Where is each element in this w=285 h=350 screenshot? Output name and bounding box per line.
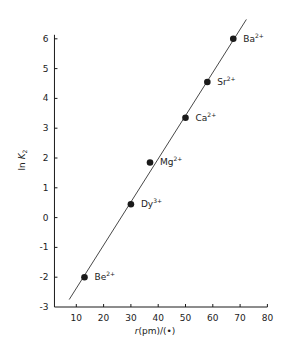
- y-tick-label: 2: [43, 153, 49, 163]
- point-marker: [182, 114, 189, 121]
- chart: -3-2-10123456 1020304050607080 Be2+Dy3+M…: [0, 0, 285, 350]
- data-point-ba: Ba2+: [230, 32, 264, 44]
- point-label: Ba2+: [243, 32, 264, 44]
- x-tick-label: 70: [234, 313, 246, 323]
- y-tick-label: 0: [43, 213, 49, 223]
- axes: -3-2-10123456 1020304050607080: [39, 34, 273, 323]
- point-marker: [230, 36, 237, 43]
- point-marker: [204, 79, 211, 86]
- y-tick-label: 3: [43, 123, 49, 133]
- point-marker: [81, 274, 88, 281]
- data-points: Be2+Dy3+Mg2+Ca2+Sr2+Ba2+: [81, 32, 264, 282]
- y-tick-label: -3: [39, 302, 48, 312]
- data-point-sr: Sr2+: [204, 75, 236, 87]
- data-point-mg: Mg2+: [147, 155, 183, 167]
- y-axis-label: ln K2: [17, 149, 28, 170]
- x-tick-label: 50: [180, 313, 192, 323]
- point-marker: [128, 201, 135, 208]
- point-label: Mg2+: [160, 155, 182, 167]
- point-label: Dy3+: [141, 197, 162, 209]
- y-tick-label: 5: [43, 64, 49, 74]
- x-tick-label: 20: [98, 313, 110, 323]
- point-label: Be2+: [94, 270, 115, 282]
- y-tick-label: 1: [43, 183, 49, 193]
- x-tick-label: 30: [125, 313, 137, 323]
- x-tick-label: 80: [262, 313, 274, 323]
- y-tick-label: -2: [39, 272, 48, 282]
- fit-line: [69, 19, 246, 299]
- y-tick-label: -1: [39, 242, 48, 252]
- point-marker: [147, 159, 154, 166]
- point-label: Sr2+: [217, 75, 235, 87]
- point-label: Ca2+: [196, 111, 217, 123]
- x-tick-label: 10: [71, 313, 83, 323]
- y-tick-label: 6: [43, 34, 49, 44]
- x-tick-label: 40: [152, 313, 164, 323]
- x-tick-label: 60: [207, 313, 219, 323]
- y-tick-label: 4: [43, 93, 49, 103]
- x-axis-label: r(pm)/(•): [135, 326, 176, 336]
